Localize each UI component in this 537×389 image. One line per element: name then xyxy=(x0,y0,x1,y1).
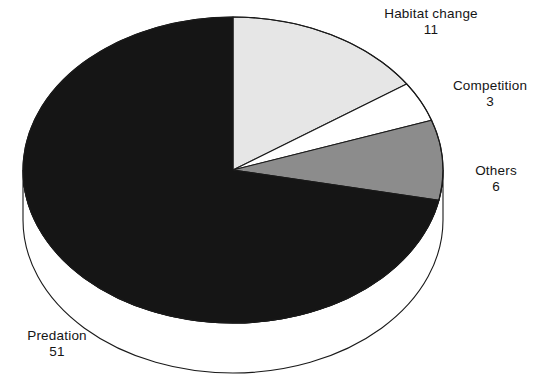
slice-label-predation: Predation 51 xyxy=(2,328,112,360)
pie-chart-figure: Habitat change 11 Competition 3 Others 6… xyxy=(0,0,537,389)
slice-label-habitat-change: Habitat change 11 xyxy=(356,6,506,38)
slice-label-habitat-change-value: 11 xyxy=(356,22,506,38)
pie-slices-group xyxy=(23,17,443,323)
slice-label-competition-name: Competition xyxy=(443,78,537,94)
slice-label-predation-value: 51 xyxy=(2,344,112,360)
slice-label-competition-value: 3 xyxy=(443,94,537,110)
slice-label-competition: Competition 3 xyxy=(443,78,537,110)
slice-label-others-value: 6 xyxy=(455,179,537,195)
slice-label-others-name: Others xyxy=(455,163,537,179)
slice-label-predation-name: Predation xyxy=(2,328,112,344)
slice-label-others: Others 6 xyxy=(455,163,537,195)
slice-label-habitat-change-name: Habitat change xyxy=(356,6,506,22)
